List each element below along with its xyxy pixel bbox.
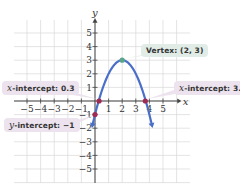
svg-text:4: 4 (86, 42, 92, 52)
y-axis-label: y (91, 7, 98, 18)
x-intercept-left-label: -intercept: 0.3 (12, 84, 74, 93)
x-intercept-right-callout: x-intercept: 3.7 (174, 81, 240, 95)
vertex-callout: Vertex: (2, 3) (141, 44, 208, 57)
vertex-label: Vertex: (2, 3) (146, 46, 203, 55)
svg-text:5: 5 (86, 28, 92, 38)
svg-text:1: 1 (106, 104, 112, 114)
x-intercept-right-label: -intercept: 3.7 (184, 84, 240, 93)
svg-text:−2: −2 (79, 123, 92, 133)
y-intercept-label: -intercept: −1 (14, 121, 74, 130)
x-axis-label: x (183, 96, 189, 107)
svg-text:3: 3 (86, 55, 92, 65)
svg-text:−4: −4 (34, 104, 48, 114)
x-intercept-left-callout: x-intercept: 0.3 (2, 81, 79, 95)
svg-text:3: 3 (133, 104, 139, 114)
svg-text:5: 5 (160, 104, 166, 114)
svg-text:−3: −3 (48, 104, 62, 114)
svg-text:−5: −5 (20, 104, 34, 114)
svg-text:2: 2 (119, 104, 125, 114)
svg-text:−2: −2 (61, 104, 74, 114)
svg-text:−3: −3 (79, 137, 93, 147)
svg-text:2: 2 (86, 69, 92, 79)
y-intercept-callout: y-intercept: −1 (4, 118, 80, 132)
svg-text:−5: −5 (79, 164, 93, 174)
svg-text:−4: −4 (79, 151, 93, 161)
svg-text:1: 1 (86, 83, 92, 93)
